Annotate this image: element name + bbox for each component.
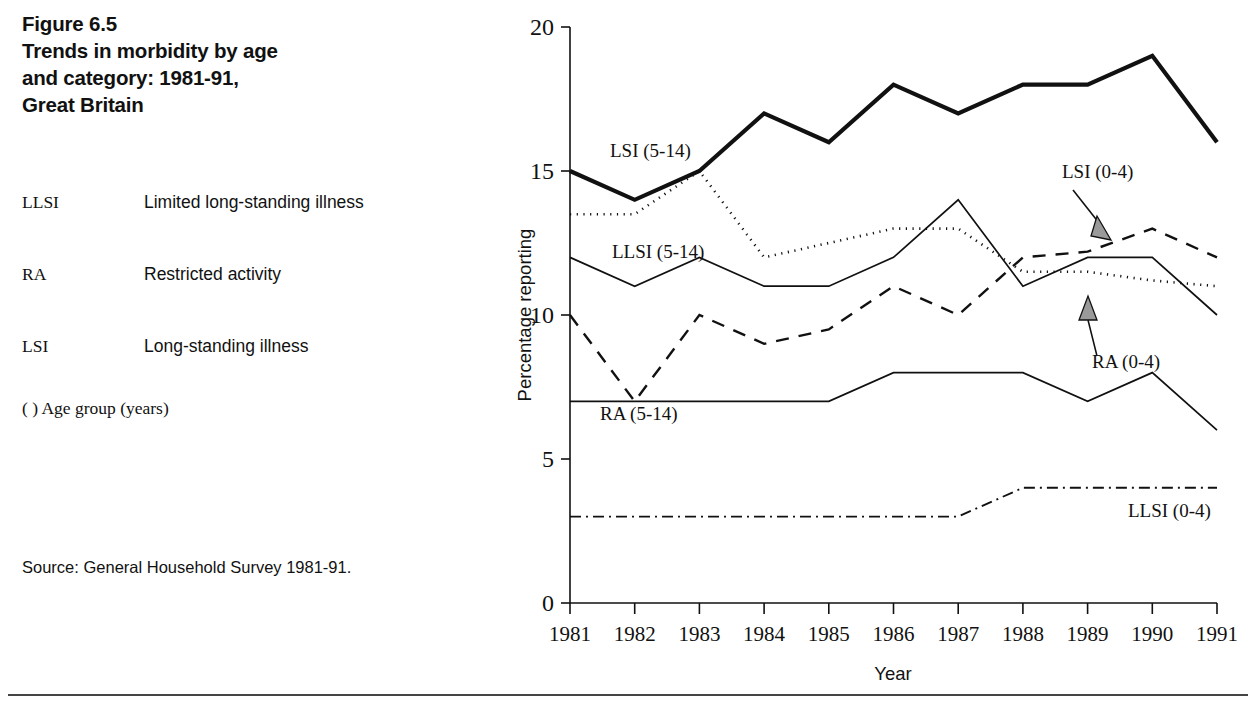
title-line-4: Great Britain — [22, 91, 442, 118]
page-title: Figure 6.5 Trends in morbidity by age an… — [22, 10, 442, 118]
age-group-note: ( ) Age group (years) — [22, 398, 169, 419]
series-label-ra-5-14: RA (5-14) — [600, 403, 678, 425]
series-line-llsi-5-14 — [570, 171, 1217, 286]
legend-row-ra: RA Restricted activity — [22, 264, 482, 288]
y-tick-label-20: 20 — [530, 14, 554, 40]
x-tick-label-1982: 1982 — [614, 622, 656, 646]
legend-row-lsi: LSI Long-standing illness — [22, 336, 482, 360]
series-label-lsi-0-4: LSI (0-4) — [1062, 161, 1133, 183]
bottom-divider — [8, 694, 1248, 696]
chart-axes — [561, 27, 1217, 614]
x-axis-tick-labels: 1981198219831984198519861987198819891990… — [549, 622, 1238, 646]
series-line-llsi-0-4 — [570, 488, 1217, 517]
x-axis-title: Year — [874, 663, 911, 684]
source-note: Source: General Household Survey 1981-91… — [22, 558, 351, 577]
y-tick-label-15: 15 — [530, 158, 554, 184]
series-label-llsi-5-14: LLSI (5-14) — [612, 241, 704, 263]
x-tick-label-1981: 1981 — [549, 622, 591, 646]
chart-annotations — [1073, 190, 1111, 356]
legend-abbr-llsi: LLSI — [22, 192, 59, 213]
legend-abbr-ra: RA — [22, 264, 46, 285]
chart-panel: 05101520 1981198219831984198519861987198… — [505, 0, 1253, 690]
ra-0-4-arrow-head — [1079, 296, 1097, 320]
series-label-lsi-5-14: LSI (5-14) — [610, 140, 691, 162]
ra-0-4-arrow — [1079, 296, 1097, 356]
series-label-llsi-0-4: LLSI (0-4) — [1128, 500, 1211, 522]
x-tick-label-1989: 1989 — [1067, 622, 1109, 646]
legend-definition-llsi: Limited long-standing illness — [144, 192, 364, 213]
y-tick-label-5: 5 — [542, 446, 554, 472]
figure-caption-panel: Figure 6.5 Trends in morbidity by age an… — [0, 0, 505, 680]
x-tick-label-1985: 1985 — [808, 622, 850, 646]
x-axis-ticks — [570, 603, 1217, 614]
x-tick-label-1991: 1991 — [1196, 622, 1238, 646]
title-line-2: Trends in morbidity by age — [22, 37, 442, 64]
lsi-0-4-arrow — [1073, 190, 1111, 240]
chart-series-group — [570, 56, 1217, 517]
chart-series-labels: LSI (5-14)LLSI (5-14)RA (0-4)LSI (0-4)RA… — [600, 140, 1211, 522]
y-tick-label-0: 0 — [542, 590, 554, 616]
title-line-1: Figure 6.5 — [22, 10, 442, 37]
legend-row-llsi: LLSI Limited long-standing illness — [22, 192, 482, 216]
x-tick-label-1984: 1984 — [743, 622, 786, 646]
lsi-0-4-arrow-head — [1091, 216, 1111, 240]
legend-abbr-lsi: LSI — [22, 336, 48, 357]
legend-definition-ra: Restricted activity — [144, 264, 281, 285]
line-chart: 05101520 1981198219831984198519861987198… — [505, 0, 1253, 690]
series-label-ra-0-4: RA (0-4) — [1092, 351, 1160, 373]
x-tick-label-1986: 1986 — [873, 622, 915, 646]
x-tick-label-1987: 1987 — [937, 622, 979, 646]
x-tick-label-1990: 1990 — [1131, 622, 1173, 646]
x-tick-label-1983: 1983 — [678, 622, 720, 646]
legend-definition-lsi: Long-standing illness — [144, 336, 308, 357]
y-axis-title: Percentage reporting — [514, 229, 535, 402]
y-axis-ticks — [561, 27, 570, 603]
title-line-3: and category: 1981-91, — [22, 64, 442, 91]
x-tick-label-1988: 1988 — [1002, 622, 1044, 646]
